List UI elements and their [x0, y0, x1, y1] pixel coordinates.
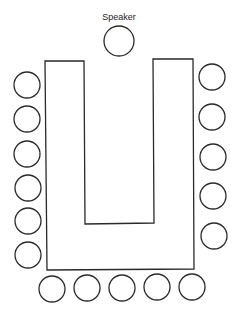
left-seat-5: [15, 208, 41, 234]
right-seat-2: [199, 104, 225, 130]
right-seat-1: [199, 64, 225, 90]
speaker-label: Speaker: [102, 12, 136, 22]
seating-diagram: Speaker: [0, 0, 236, 317]
left-seat-3: [14, 141, 40, 167]
bottom-seat-3: [109, 275, 135, 301]
bottom-seat-1: [39, 276, 65, 302]
bottom-seat-5: [179, 274, 205, 300]
left-seat-6: [15, 242, 41, 268]
bottom-seat-4: [144, 274, 170, 300]
speaker-seat: [104, 26, 134, 56]
right-seat-3: [200, 144, 226, 170]
right-seat-5: [201, 223, 227, 249]
left-seat-group: [14, 72, 41, 268]
bottom-seat-group: [39, 274, 205, 302]
right-seat-4: [200, 183, 226, 209]
left-seat-2: [14, 106, 40, 132]
left-seat-4: [15, 175, 41, 201]
u-shaped-table: [45, 59, 194, 270]
bottom-seat-2: [74, 275, 100, 301]
right-seat-group: [199, 64, 227, 249]
left-seat-1: [14, 72, 40, 98]
